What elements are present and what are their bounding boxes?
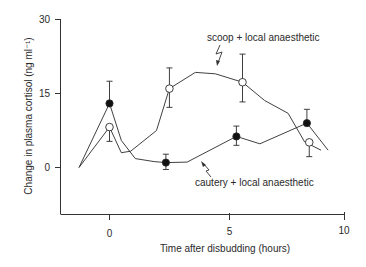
x-tick-label-10: 10 — [338, 225, 350, 236]
cautery-data-point — [233, 133, 240, 140]
scoop-data-point — [305, 139, 313, 147]
x-axis-title: Time after disbudding (hours) — [160, 243, 290, 254]
y-tick-label-30: 30 — [39, 14, 51, 25]
y-tick-label-15: 15 — [39, 88, 51, 99]
y-tick-label-0: 0 — [44, 162, 50, 173]
axes — [55, 19, 345, 220]
cautery-series-line — [79, 103, 328, 167]
cautery-data-point — [106, 100, 113, 107]
cautery-data-point — [303, 120, 310, 127]
cautery-series-label: cautery + local anaesthetic — [195, 177, 314, 188]
scoop-pointer-arrowhead — [216, 60, 220, 66]
x-tick-label-5: 5 — [227, 226, 233, 237]
scoop-data-point — [239, 78, 247, 86]
y-axis-title: Change in plasma cortisol (ng ml⁻¹) — [23, 37, 34, 194]
scoop-data-point — [106, 123, 114, 131]
plot-area — [79, 54, 328, 169]
scoop-series-label: scoop + local anaesthetic — [207, 32, 320, 43]
scoop-data-point — [166, 85, 174, 93]
scoop-series-line — [79, 72, 321, 167]
x-tick-label-0: 0 — [107, 228, 113, 239]
cortisol-chart: 30 15 0 0 5 10 Time after disbudding (ho… — [0, 0, 366, 267]
cautery-data-point — [162, 159, 169, 166]
